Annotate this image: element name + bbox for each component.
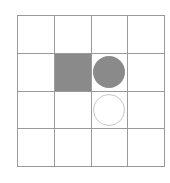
grid-cell-r4-c2 — [55, 129, 92, 167]
grid-cell-r2-c1 — [18, 54, 55, 92]
shape-grid — [17, 15, 165, 167]
grid-cell-r1-c2 — [55, 16, 92, 54]
grid-cell-r2-c4 — [128, 54, 165, 92]
grid-cell-r4-c1 — [18, 129, 55, 167]
grid-cell-r3-c4 — [128, 92, 165, 130]
grid-cell-r2-c2-square-filled — [55, 54, 92, 92]
grid-cell-r1-c3 — [92, 16, 129, 54]
grid-cell-r3-c1 — [18, 92, 55, 130]
grid-cell-r4-c3 — [92, 129, 129, 167]
grid-cell-r3-c2 — [55, 92, 92, 130]
grid-cell-r1-c4 — [128, 16, 165, 54]
grid-cell-r2-c3-circle-filled — [92, 54, 129, 92]
grid-cell-r4-c4 — [128, 129, 165, 167]
grid-cell-r1-c1 — [18, 16, 55, 54]
grid-cell-r3-c3-circle-outline — [92, 92, 129, 130]
puzzle-figure — [0, 0, 170, 183]
